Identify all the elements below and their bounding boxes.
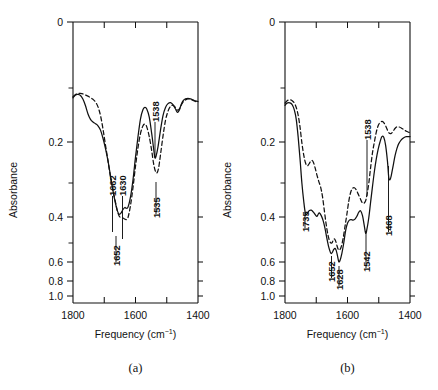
panel-a-annotation-1535-label: 1535 xyxy=(152,197,162,218)
panel-a-xtick-1400: 1400 xyxy=(186,309,210,321)
panel-b-xtick-1600: 1600 xyxy=(336,309,360,321)
panel-b-curve-solid xyxy=(285,103,410,262)
panel-a-curve-solid xyxy=(73,94,198,214)
panel-a-annotation-1538-label: 1538 xyxy=(151,101,161,122)
panel-b-annotation-1628: 1628 xyxy=(335,266,345,290)
panel-b-annotation-1735-label: 1735 xyxy=(301,211,311,232)
panel-a-ytick-08: 0.8 xyxy=(48,275,63,287)
panel-a: 0 0.2 0.4 0.6 0.8 1.0 1800 1600 1400 Abs… xyxy=(0,0,219,390)
panel-a-ytick-0: 0 xyxy=(57,16,63,28)
panel-b-ytick-06: 0.6 xyxy=(260,256,275,268)
panel-b-ytick-04: 0.4 xyxy=(260,211,275,223)
panel-a-annotation-1652-label: 1652 xyxy=(112,245,122,266)
panel-b-x-axis-title-sup: −1 xyxy=(377,327,385,336)
panel-a-x-axis-title-sup: −1 xyxy=(165,327,173,336)
panel-a-x-axis-title-base: Frequency (cm xyxy=(95,328,165,340)
panel-b-annotation-1538-label: 1538 xyxy=(363,119,373,140)
panel-a-plot: 0 0.2 0.4 0.6 0.8 1.0 1800 1600 1400 Abs… xyxy=(0,0,219,390)
panel-b-ytick-10: 1.0 xyxy=(260,290,275,302)
panel-b-ytick-08: 0.8 xyxy=(260,275,275,287)
panel-a-ytick-04: 0.4 xyxy=(48,211,63,223)
panel-b-annotation-1628-label: 1628 xyxy=(335,269,345,290)
panel-b-x-axis-title-close: ) xyxy=(385,328,389,340)
panel-a-xtick-1800: 1800 xyxy=(61,309,85,321)
panel-b-x-ticks-top xyxy=(316,22,379,28)
panel-a-xtick-1600: 1600 xyxy=(124,309,148,321)
panel-b-ytick-02: 0.2 xyxy=(260,136,275,148)
panel-b-annotation-1735: 1735 xyxy=(301,211,311,232)
panel-b-annotation-1538: 1538 xyxy=(363,119,373,196)
panel-b-x-ticks-bottom xyxy=(316,297,379,303)
panel-a-y-ticks-right xyxy=(198,142,203,296)
panel-b-ytick-0: 0 xyxy=(269,16,275,28)
panel-b-y-ticks xyxy=(279,22,285,296)
panel-b-x-axis-title: Frequency (cm−1) xyxy=(307,327,389,340)
panel-b: 0 0.2 0.4 0.6 0.8 1.0 1800 1600 1400 Abs… xyxy=(219,0,438,390)
panel-b-annotation-1468-label: 1468 xyxy=(384,215,394,236)
panel-a-annotation-1652: 1652 xyxy=(112,236,122,266)
panel-a-x-axis-title-close: ) xyxy=(173,328,177,340)
panel-b-xtick-1400: 1400 xyxy=(398,309,422,321)
panel-b-y-ticks-right xyxy=(410,142,415,296)
panel-b-x-axis-title-base: Frequency (cm xyxy=(307,328,377,340)
panel-a-annotation-1662-label: 1662 xyxy=(108,175,118,196)
panel-a-annotation-1630-label: 1630 xyxy=(118,175,128,196)
panel-b-axis-frame xyxy=(285,22,410,303)
panel-a-x-axis-title: Frequency (cm−1) xyxy=(95,327,177,340)
panel-a-ytick-10: 1.0 xyxy=(48,290,63,302)
panel-b-y-axis-title: Absorbance xyxy=(221,162,233,218)
panel-b-xtick-1800: 1800 xyxy=(273,309,297,321)
panel-a-y-ticks xyxy=(67,22,73,296)
panel-a-x-ticks-top xyxy=(104,22,167,28)
panel-a-x-ticks-bottom xyxy=(104,297,167,303)
panel-b-plot: 0 0.2 0.4 0.6 0.8 1.0 1800 1600 1400 Abs… xyxy=(219,0,438,390)
panel-a-annotation-1662: 1662 xyxy=(108,175,118,232)
panel-a-ytick-06: 0.6 xyxy=(48,256,63,268)
panel-a-caption: (a) xyxy=(129,361,143,375)
panel-a-annotation-1630: 1630 xyxy=(118,175,128,239)
panel-a-annotation-1535: 1535 xyxy=(152,182,162,218)
panel-a-y-axis-title: Absorbance xyxy=(7,162,19,218)
panel-b-annotation-1542-label: 1542 xyxy=(362,251,372,272)
panel-b-caption: (b) xyxy=(340,361,355,375)
panel-b-annotation-1542: 1542 xyxy=(362,232,372,272)
figure-root: 0 0.2 0.4 0.6 0.8 1.0 1800 1600 1400 Abs… xyxy=(0,0,438,390)
panel-a-ytick-02: 0.2 xyxy=(48,136,63,148)
